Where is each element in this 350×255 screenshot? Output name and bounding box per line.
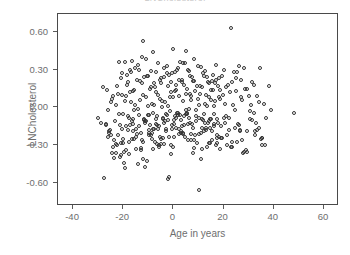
data-point bbox=[233, 108, 237, 112]
data-point bbox=[230, 80, 234, 84]
data-point bbox=[194, 119, 198, 123]
data-point bbox=[207, 119, 211, 123]
data-point bbox=[205, 145, 209, 149]
data-point bbox=[247, 94, 251, 98]
data-point bbox=[220, 74, 224, 78]
data-point bbox=[260, 136, 264, 140]
data-point bbox=[254, 121, 258, 125]
data-point bbox=[199, 157, 203, 161]
data-point bbox=[175, 68, 179, 72]
data-point bbox=[148, 87, 152, 91]
data-point bbox=[158, 135, 162, 139]
data-point bbox=[162, 142, 166, 146]
data-point bbox=[218, 147, 222, 151]
data-point bbox=[263, 143, 267, 147]
data-point bbox=[252, 111, 256, 115]
data-point bbox=[196, 64, 200, 68]
data-point bbox=[204, 93, 208, 97]
data-point bbox=[249, 103, 253, 107]
data-point bbox=[156, 127, 160, 131]
data-point bbox=[121, 141, 125, 145]
data-point bbox=[269, 108, 273, 112]
data-point bbox=[105, 88, 109, 92]
data-point bbox=[165, 113, 169, 117]
data-point bbox=[234, 89, 238, 93]
data-point bbox=[187, 116, 191, 120]
data-point bbox=[184, 49, 188, 53]
data-point bbox=[212, 112, 216, 116]
data-point bbox=[192, 57, 196, 61]
data-point bbox=[129, 70, 133, 74]
data-point bbox=[210, 79, 214, 83]
data-point bbox=[128, 90, 132, 94]
data-point bbox=[200, 147, 204, 151]
data-point bbox=[193, 89, 197, 93]
data-point bbox=[197, 103, 201, 107]
data-point bbox=[257, 126, 261, 130]
x-axis-tick bbox=[72, 205, 73, 209]
data-point bbox=[203, 69, 207, 73]
data-point bbox=[132, 108, 136, 112]
data-point bbox=[225, 133, 229, 137]
data-point bbox=[214, 78, 218, 82]
data-point bbox=[200, 126, 204, 130]
data-point bbox=[181, 99, 185, 103]
data-point bbox=[181, 131, 185, 135]
data-point bbox=[223, 102, 227, 106]
data-point bbox=[228, 90, 232, 94]
data-point bbox=[171, 47, 175, 51]
data-point bbox=[255, 94, 259, 98]
data-point bbox=[139, 131, 143, 135]
data-point bbox=[137, 113, 141, 117]
data-point bbox=[183, 61, 187, 65]
x-axis-tick-label: -20 bbox=[115, 211, 129, 222]
data-point bbox=[120, 71, 124, 75]
data-point bbox=[212, 104, 216, 108]
data-point bbox=[134, 135, 138, 139]
data-point bbox=[177, 127, 181, 131]
data-point bbox=[162, 121, 166, 125]
chart-title: LNCholesterol bbox=[0, 0, 350, 1]
data-point bbox=[112, 156, 116, 160]
data-point bbox=[211, 73, 215, 77]
data-point bbox=[106, 108, 110, 112]
data-point bbox=[253, 133, 257, 137]
x-axis-tick-label: -40 bbox=[65, 211, 79, 222]
data-point bbox=[192, 79, 196, 83]
data-point bbox=[127, 152, 131, 156]
data-point bbox=[230, 140, 234, 144]
data-point bbox=[234, 76, 238, 80]
data-point bbox=[166, 118, 170, 122]
data-point bbox=[193, 133, 197, 137]
data-point bbox=[154, 122, 158, 126]
data-point bbox=[167, 135, 171, 139]
data-point bbox=[143, 165, 147, 169]
data-point bbox=[125, 73, 129, 77]
data-points-layer bbox=[58, 14, 337, 204]
data-point bbox=[191, 126, 195, 130]
data-point bbox=[223, 121, 227, 125]
data-point bbox=[131, 122, 135, 126]
data-point bbox=[133, 103, 137, 107]
data-point bbox=[214, 63, 218, 67]
data-point bbox=[137, 68, 141, 72]
data-point bbox=[174, 83, 178, 87]
data-point bbox=[214, 143, 218, 147]
data-point bbox=[169, 152, 173, 156]
data-point bbox=[153, 85, 157, 89]
y-axis-tick bbox=[53, 182, 57, 183]
data-point bbox=[140, 81, 144, 85]
data-point bbox=[166, 84, 170, 88]
data-point bbox=[126, 128, 130, 132]
data-point bbox=[211, 88, 215, 92]
data-point bbox=[258, 66, 262, 70]
data-point bbox=[151, 111, 155, 115]
data-point bbox=[198, 92, 202, 96]
data-point bbox=[154, 117, 158, 121]
data-point bbox=[151, 147, 155, 151]
data-point bbox=[117, 60, 121, 64]
data-point bbox=[203, 121, 207, 125]
data-point bbox=[151, 50, 155, 54]
data-point bbox=[192, 146, 196, 150]
data-point bbox=[238, 129, 242, 133]
